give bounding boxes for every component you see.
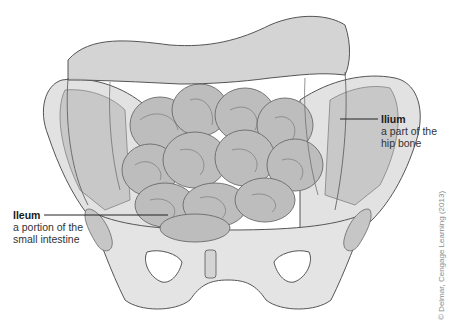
ileum-label-line2: small intestine [13, 233, 83, 245]
copyright-credit: © Delmar, Cengage Learning (2013) [437, 191, 446, 320]
ilium-label: Ilium a part of the hip bone [381, 113, 437, 149]
ileum-label-line1: a portion of the [13, 221, 83, 233]
ileum-label-title: Ileum [13, 209, 83, 221]
pubic-symphysis [205, 250, 216, 278]
ileum-label: Ileum a portion of the small intestine [13, 209, 83, 245]
pelvis-intestine-illustration [0, 0, 456, 321]
ilium-label-title: Ilium [381, 113, 437, 125]
colon [68, 16, 350, 84]
ilium-label-line2: hip bone [381, 137, 437, 149]
ilium-label-line1: a part of the [381, 125, 437, 137]
